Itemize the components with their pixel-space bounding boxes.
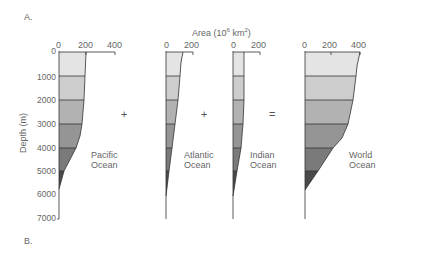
plus-operator-1: + <box>121 108 127 120</box>
world-label-line1: World <box>349 150 376 160</box>
indian-profile <box>233 51 260 219</box>
indian-label-line1: Indian <box>250 150 277 160</box>
atlantic-profile <box>166 51 193 219</box>
atlantic-label-line2: Ocean <box>184 160 214 170</box>
atlantic-label-line1: Atlantic <box>184 150 214 160</box>
pacific-label-line1: Pacific <box>91 150 118 160</box>
equals-operator: = <box>269 108 275 120</box>
plus-operator-2: + <box>201 108 207 120</box>
world-label-line2: Ocean <box>349 160 376 170</box>
atlantic-label: Atlantic Ocean <box>184 150 214 170</box>
pacific-label: Pacific Ocean <box>91 150 118 170</box>
world-profile <box>305 51 360 219</box>
pacific-profile <box>57 51 115 219</box>
hypsometry-diagram <box>0 0 427 254</box>
world-label: World Ocean <box>349 150 376 170</box>
indian-label: Indian Ocean <box>250 150 277 170</box>
indian-label-line2: Ocean <box>250 160 277 170</box>
pacific-label-line2: Ocean <box>91 160 118 170</box>
